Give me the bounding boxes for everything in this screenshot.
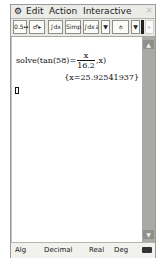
toolbar-separator: [141, 20, 144, 34]
assist-arrow-button[interactable]: ♂▸: [29, 20, 45, 34]
status-angle[interactable]: Deg: [114, 243, 128, 258]
close-icon[interactable]: ✕: [145, 7, 153, 15]
menu-action[interactable]: Action: [49, 5, 77, 18]
decimal-fraction-toggle-button[interactable]: 0.5↔½: [13, 20, 27, 34]
scroll-down-icon[interactable]: ▼: [143, 230, 154, 239]
dropdown-arrow-1[interactable]: ▼: [101, 20, 110, 34]
menu-interactive[interactable]: Interactive: [83, 5, 131, 18]
status-mode[interactable]: Alg: [15, 243, 26, 258]
fraction-numerator: x: [77, 51, 95, 61]
output-result: {x=25.92541937}: [64, 73, 139, 82]
gear-icon[interactable]: ⚙: [14, 5, 22, 18]
work-area[interactable]: solve(tan(58)=x16.2,x) {x=25.92541937}: [11, 37, 142, 242]
toolbar: 0.5↔½ ♂▸ ∫dx Simp ∫dx↓ ▼ ⫛ ▼ ▸: [11, 19, 155, 37]
expr-suffix: ,x): [96, 56, 106, 65]
toolbar-scroll-right[interactable]: ▸: [145, 20, 154, 34]
input-cursor[interactable]: [15, 87, 19, 94]
fdx-button[interactable]: ∫dx↓: [83, 20, 99, 34]
main-window: ⚙ Edit Action Interactive ✕ 0.5↔½ ♂▸ ∫dx…: [10, 4, 156, 258]
status-number[interactable]: Real: [89, 243, 104, 258]
fraction: x16.2: [77, 51, 95, 70]
fraction-denominator: 16.2: [77, 61, 95, 70]
status-bar: Alg Decimal Real Deg: [11, 242, 155, 258]
simp-button[interactable]: Simp: [65, 20, 81, 34]
scroll-up-icon[interactable]: ▲: [143, 40, 154, 49]
vertical-scrollbar[interactable]: ▲ ▼: [142, 37, 155, 242]
dropdown-arrow-2[interactable]: ▼: [131, 20, 140, 34]
status-format[interactable]: Decimal: [44, 243, 73, 258]
input-expression[interactable]: solve(tan(58)=x16.2,x): [16, 51, 106, 70]
integrate-button[interactable]: ∫dx: [48, 20, 63, 34]
expr-prefix: solve(tan(58)=: [16, 56, 76, 65]
battery-icon: [142, 247, 152, 253]
graph-tool-button[interactable]: ⫛: [112, 20, 129, 34]
menu-bar: ⚙ Edit Action Interactive ✕: [11, 5, 155, 19]
menu-edit[interactable]: Edit: [26, 5, 43, 18]
